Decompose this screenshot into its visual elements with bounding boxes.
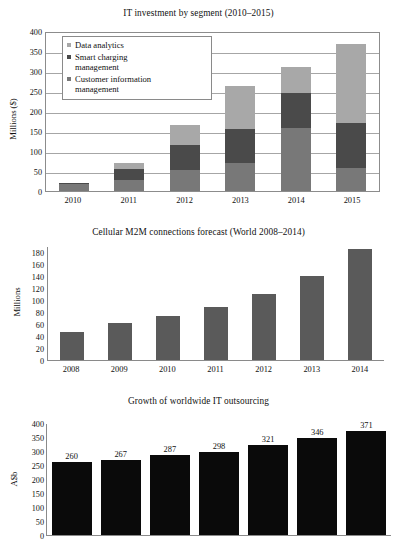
chart3-y-tick: 150 <box>32 490 44 499</box>
legend-label: Data analytics <box>75 40 124 51</box>
chart1-seg-data-analytics <box>336 44 366 124</box>
chart1-bar-2011[interactable] <box>114 163 144 191</box>
chart3-value-label: 346 <box>311 428 324 437</box>
chart1-y-tick: 50 <box>34 168 42 177</box>
chart2-bar-2011[interactable] <box>204 307 228 360</box>
chart1-y-axis-label: Millions ($) <box>8 84 18 154</box>
chart2-y-tick: 0 <box>40 357 44 366</box>
chart3-y-tick: 0 <box>40 532 44 541</box>
chart2-bar-slot <box>336 247 384 360</box>
chart2-y-tick: 80 <box>36 309 44 318</box>
chart1-x-tick: 2014 <box>268 196 324 205</box>
chart1-y-tick: 300 <box>30 68 42 77</box>
chart3-y-tick: 350 <box>32 434 44 443</box>
chart2-bar-2012[interactable] <box>252 294 276 360</box>
chart2-x-tick: 2009 <box>95 365 143 374</box>
chart2-bar-slot <box>240 247 288 360</box>
chart1-x-tick: 2010 <box>45 196 101 205</box>
chart1-seg-smart-charging-management <box>114 169 144 180</box>
chart2-bar-2014[interactable] <box>348 249 372 360</box>
chart3-y-tick: 250 <box>32 462 44 471</box>
chart1-legend: Data analytics Smart charging management… <box>62 36 212 100</box>
chart1-bar-2013[interactable] <box>225 86 255 191</box>
chart1-bar-2015[interactable] <box>336 44 366 191</box>
chart2-title: Cellular M2M connections forecast (World… <box>0 227 397 237</box>
legend-item-smart-charging-management[interactable]: Smart charging management <box>67 52 206 73</box>
figure-page: IT investment by segment (2010–2015) Mil… <box>0 0 397 559</box>
chart1-seg-customer-information-management <box>281 128 311 191</box>
chart3-y-ticks: 0 50 100 150 200 250 300 350 400 <box>18 424 44 536</box>
chart1-y-tick: 150 <box>30 128 42 137</box>
chart1-bar-2010[interactable] <box>59 183 89 191</box>
chart3-bar-slot: 267 <box>96 424 145 535</box>
chart3-bar-slot: 260 <box>47 424 96 535</box>
legend-item-data-analytics[interactable]: Data analytics <box>67 40 206 51</box>
chart-it-outsourcing: Growth of worldwide IT outsourcing A$b 0… <box>0 396 397 559</box>
chart3-bar-7[interactable]: 371 <box>346 431 386 535</box>
chart3-bar-slot: 287 <box>145 424 194 535</box>
chart2-y-tick: 120 <box>32 285 44 294</box>
chart1-bar-2014[interactable] <box>281 67 311 191</box>
chart3-bar-3[interactable]: 287 <box>150 455 190 535</box>
chart2-bar-2008[interactable] <box>60 332 84 360</box>
chart2-y-tick: 160 <box>32 261 44 270</box>
chart1-seg-customer-information-management <box>225 163 255 191</box>
chart3-y-tick: 50 <box>36 518 44 527</box>
chart1-seg-smart-charging-management <box>336 123 366 168</box>
chart1-x-tick: 2013 <box>212 196 268 205</box>
chart3-title: Growth of worldwide IT outsourcing <box>0 396 397 406</box>
chart2-plot-area <box>47 247 384 361</box>
chart2-x-tick: 2012 <box>240 365 288 374</box>
chart3-bar-1[interactable]: 260 <box>52 462 92 535</box>
legend-item-customer-information-management[interactable]: Customer information management <box>67 74 206 95</box>
chart3-bar-6[interactable]: 346 <box>297 438 337 535</box>
chart2-y-tick: 100 <box>32 297 44 306</box>
chart1-seg-customer-information-management <box>114 180 144 191</box>
chart3-y-tick: 100 <box>32 504 44 513</box>
chart2-bar-slot <box>288 247 336 360</box>
chart1-y-tick: 250 <box>30 88 42 97</box>
chart1-bar-slot <box>213 33 269 191</box>
chart3-bar-4[interactable]: 298 <box>199 452 239 535</box>
chart2-bar-slot <box>96 247 144 360</box>
chart1-y-tick: 0 <box>38 188 42 197</box>
chart3-plot-area: 260 267 287 29 <box>46 424 391 536</box>
chart1-bar-slot <box>268 33 324 191</box>
chart2-x-tick: 2014 <box>336 365 384 374</box>
chart1-seg-data-analytics <box>170 125 200 144</box>
chart3-value-label: 321 <box>262 435 275 444</box>
chart1-seg-smart-charging-management <box>170 145 200 170</box>
chart2-x-tick: 2010 <box>143 365 191 374</box>
chart2-y-tick: 60 <box>36 321 44 330</box>
chart2-y-tick: 140 <box>32 273 44 282</box>
chart3-value-label: 287 <box>164 445 177 454</box>
chart2-bar-slot <box>144 247 192 360</box>
chart3-bar-slot: 371 <box>342 424 391 535</box>
chart1-bar-2012[interactable] <box>170 125 200 191</box>
chart3-value-label: 267 <box>114 450 127 459</box>
chart1-seg-customer-information-management <box>170 170 200 191</box>
chart2-x-tick: 2013 <box>288 365 336 374</box>
chart1-y-ticks: 0 50 100 150 200 250 300 350 400 <box>18 32 42 192</box>
chart1-seg-customer-information-management <box>59 184 89 191</box>
chart2-bar-2009[interactable] <box>108 323 132 360</box>
chart3-value-label: 371 <box>360 421 373 430</box>
chart2-x-ticks: 2008 2009 2010 2011 2012 2013 2014 <box>47 365 384 374</box>
chart1-x-ticks: 2010 2011 2012 2013 2014 2015 <box>45 196 380 205</box>
chart1-title: IT investment by segment (2010–2015) <box>0 8 397 18</box>
chart3-y-tick: 400 <box>32 420 44 429</box>
chart3-value-label: 260 <box>65 452 78 461</box>
chart2-bar-2013[interactable] <box>300 276 324 360</box>
chart1-seg-smart-charging-management <box>281 93 311 128</box>
chart2-bar-2010[interactable] <box>156 316 180 360</box>
chart3-bar-5[interactable]: 321 <box>248 445 288 535</box>
legend-swatch-icon <box>67 55 71 59</box>
chart-it-investment: IT investment by segment (2010–2015) Mil… <box>0 8 397 213</box>
chart3-bar-slot: 346 <box>293 424 342 535</box>
legend-swatch-icon <box>67 77 71 81</box>
chart3-y-tick: 200 <box>32 476 44 485</box>
chart3-bar-2[interactable]: 267 <box>101 460 141 535</box>
chart3-bar-slot: 298 <box>194 424 243 535</box>
chart1-x-tick: 2015 <box>324 196 380 205</box>
chart-cellular-m2m: Cellular M2M connections forecast (World… <box>0 227 397 387</box>
